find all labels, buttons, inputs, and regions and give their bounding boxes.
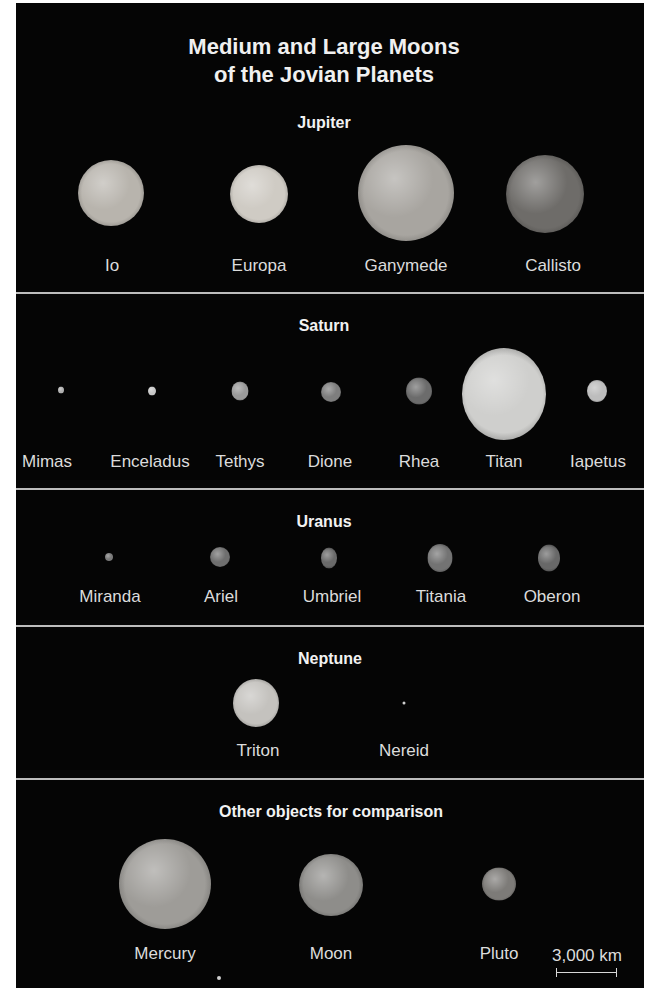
moon-triton xyxy=(233,679,279,727)
section-divider xyxy=(16,778,644,780)
diagram-title-line1: Medium and Large Moons xyxy=(188,34,459,60)
moon-titan xyxy=(462,348,546,440)
moon-umbriel xyxy=(321,548,337,569)
label-dione: Dione xyxy=(308,452,352,472)
moon-titania xyxy=(428,544,453,572)
moon-dione xyxy=(321,382,341,402)
section-divider xyxy=(16,625,644,627)
stray-dot xyxy=(217,976,221,980)
scale-bar-tick-right xyxy=(616,968,617,977)
label-moon: Moon xyxy=(310,944,353,964)
label-titan: Titan xyxy=(485,452,522,472)
moon-europa xyxy=(230,165,288,223)
moon-nereid xyxy=(403,702,406,705)
label-enceladus: Enceladus xyxy=(110,452,189,472)
label-rhea: Rhea xyxy=(399,452,440,472)
moon-enceladus xyxy=(148,387,156,396)
label-ganymede: Ganymede xyxy=(364,256,447,276)
moon-mimas xyxy=(58,387,64,394)
label-iapetus: Iapetus xyxy=(570,452,626,472)
section-heading-uranus: Uranus xyxy=(296,513,351,531)
moon-ganymede xyxy=(358,145,454,241)
label-tethys: Tethys xyxy=(215,452,264,472)
label-europa: Europa xyxy=(232,256,287,276)
section-heading-other-objects: Other objects for comparison xyxy=(219,803,443,821)
label-pluto: Pluto xyxy=(480,944,519,964)
diagram-panel xyxy=(16,3,644,988)
section-heading-saturn: Saturn xyxy=(299,317,350,335)
label-io: Io xyxy=(105,256,119,276)
section-divider xyxy=(16,488,644,490)
label-umbriel: Umbriel xyxy=(303,587,362,607)
moon-io xyxy=(78,160,144,226)
label-nereid: Nereid xyxy=(379,741,429,761)
scale-bar-tick-left xyxy=(556,968,557,977)
label-oberon: Oberon xyxy=(524,587,581,607)
moon-earth-moon xyxy=(299,854,363,916)
label-ariel: Ariel xyxy=(204,587,238,607)
moon-callisto xyxy=(506,155,584,233)
scale-bar-label: 3,000 km xyxy=(552,946,622,966)
moon-miranda xyxy=(105,553,113,561)
section-heading-neptune: Neptune xyxy=(298,650,362,668)
moon-rhea xyxy=(406,378,432,405)
label-mercury: Mercury xyxy=(134,944,195,964)
moon-iapetus xyxy=(587,380,607,402)
section-divider xyxy=(16,292,644,294)
dwarf-planet-pluto xyxy=(482,868,516,901)
moon-oberon xyxy=(538,545,560,572)
label-mimas: Mimas xyxy=(22,452,72,472)
label-miranda: Miranda xyxy=(79,587,140,607)
label-callisto: Callisto xyxy=(525,256,581,276)
scale-bar-line xyxy=(556,972,617,973)
moon-tethys xyxy=(232,382,249,401)
planet-mercury xyxy=(119,839,211,929)
diagram-title-line2: of the Jovian Planets xyxy=(214,62,434,88)
section-heading-jupiter: Jupiter xyxy=(297,114,350,132)
label-titania: Titania xyxy=(416,587,466,607)
moon-ariel xyxy=(210,547,230,567)
label-triton: Triton xyxy=(237,741,280,761)
